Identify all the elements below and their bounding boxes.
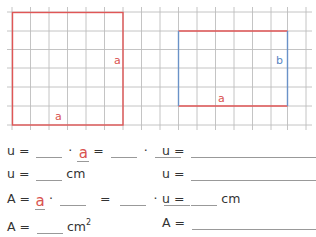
rectangle-bottom-label: a bbox=[218, 92, 225, 105]
answer-blank[interactable] bbox=[191, 192, 217, 206]
perimeter-prefix: u = bbox=[7, 143, 29, 158]
equals-sign: = bbox=[100, 191, 110, 206]
answer-blank[interactable] bbox=[60, 192, 86, 206]
area-prefix: A = bbox=[7, 219, 30, 234]
area-prefix: A = bbox=[7, 191, 30, 206]
unit-label: cm2 bbox=[67, 219, 91, 234]
right-area-formula: A = bbox=[162, 215, 316, 231]
unit-label: cm bbox=[66, 166, 85, 181]
equals-sign: = bbox=[93, 143, 103, 158]
answer-blank[interactable] bbox=[37, 220, 63, 234]
multiply-dot: · bbox=[68, 143, 72, 158]
answer-blank[interactable] bbox=[120, 192, 146, 206]
multiply-dot: · bbox=[144, 143, 148, 158]
right-perimeter-result: u = cm bbox=[162, 191, 240, 207]
answer-blank[interactable] bbox=[111, 144, 137, 158]
multiply-dot: · bbox=[49, 191, 53, 206]
answer-line[interactable] bbox=[191, 167, 316, 181]
rectangle-side-label: b bbox=[276, 54, 283, 67]
left-area-result: A = cm2 bbox=[7, 215, 91, 235]
answer-line[interactable] bbox=[191, 144, 316, 158]
answer-blank[interactable] bbox=[36, 167, 62, 181]
right-perimeter-substitution: u = bbox=[162, 166, 316, 182]
grid-figure: a a b a bbox=[0, 0, 316, 135]
multiply-dot: · bbox=[153, 191, 157, 206]
filled-answer-a[interactable]: a bbox=[77, 146, 89, 162]
left-perimeter-result: u = cm bbox=[7, 166, 85, 182]
perimeter-prefix: u = bbox=[7, 166, 29, 181]
left-perimeter-formula: u = · a = · bbox=[7, 143, 181, 162]
answer-blank[interactable] bbox=[36, 144, 62, 158]
square-side-label: a bbox=[114, 54, 121, 67]
area-prefix: A = bbox=[162, 215, 185, 230]
grid-lines bbox=[7, 7, 312, 130]
perimeter-prefix: u = bbox=[162, 191, 184, 206]
answer-line[interactable] bbox=[192, 216, 316, 230]
perimeter-prefix: u = bbox=[162, 143, 184, 158]
perimeter-prefix: u = bbox=[162, 166, 184, 181]
unit-label: cm bbox=[221, 191, 240, 206]
right-perimeter-formula: u = bbox=[162, 143, 316, 159]
square-bottom-label: a bbox=[55, 110, 62, 123]
filled-answer-a[interactable]: a bbox=[35, 194, 45, 210]
